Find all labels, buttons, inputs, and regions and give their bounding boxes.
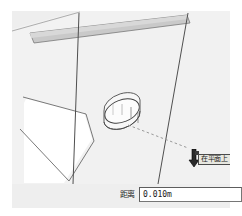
distance-input[interactable]: 0.010m xyxy=(143,190,172,200)
distance-input-wrapper[interactable]: 0.010m xyxy=(139,187,242,202)
distance-label: 距离 xyxy=(105,189,135,200)
model-viewport[interactable]: 在平面上 xyxy=(12,11,230,184)
measurements-bar: 距离 0.010m xyxy=(12,184,230,208)
on-face-inference-tooltip: 在平面上 xyxy=(198,154,230,165)
sketchup-window: 在平面上 距离 0.010m xyxy=(0,0,242,216)
